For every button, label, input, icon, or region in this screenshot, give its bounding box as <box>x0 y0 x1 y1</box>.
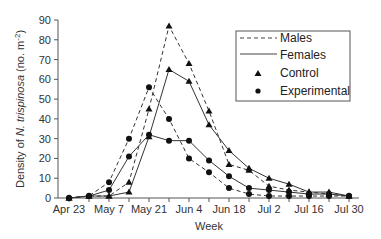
y-tick-label: 60 <box>39 73 51 85</box>
circle-marker <box>306 191 312 197</box>
y-tick-label: 50 <box>39 93 51 105</box>
series-males-experimental <box>66 84 352 201</box>
x-tick-label: Jul 16 <box>294 203 323 215</box>
circle-marker-icon <box>255 88 260 93</box>
triangle-marker <box>146 106 153 112</box>
y-axis-title: Density of N. trispinosa (no. m-2) <box>13 30 27 188</box>
legend-label-males: Males <box>280 31 312 45</box>
x-tick-label: Apr 23 <box>53 203 85 215</box>
x-tick-label: Jun 4 <box>176 203 203 215</box>
triangle-marker <box>166 66 173 72</box>
x-axis-title: Week <box>195 220 223 232</box>
y-tick-label: 20 <box>39 152 51 164</box>
line-chart: 0102030405060708090Apr 23May 7May 21Jun … <box>0 0 381 239</box>
y-tick-label: 70 <box>39 54 51 66</box>
triangle-marker <box>126 179 133 185</box>
circle-marker <box>246 185 252 191</box>
triangle-marker <box>206 107 213 113</box>
x-tick-label: Jul 30 <box>334 203 363 215</box>
legend-label-experimental: Experimental <box>280 84 350 98</box>
y-tick-label: 80 <box>39 34 51 46</box>
x-tick-label: May 7 <box>94 203 124 215</box>
triangle-marker <box>206 121 213 127</box>
circle-marker <box>206 157 212 163</box>
triangle-marker <box>186 78 193 84</box>
circle-marker <box>286 189 292 195</box>
triangle-marker <box>226 161 233 167</box>
x-tick-label: May 21 <box>131 203 167 215</box>
circle-marker <box>226 185 232 191</box>
triangle-marker <box>166 22 173 28</box>
circle-marker <box>146 132 152 138</box>
x-tick-label: Jul 2 <box>257 203 280 215</box>
circle-marker <box>106 187 112 193</box>
circle-marker <box>166 138 172 144</box>
circle-marker <box>346 193 352 199</box>
circle-marker <box>86 193 92 199</box>
circle-marker <box>266 187 272 193</box>
triangle-marker <box>126 189 133 195</box>
circle-marker <box>126 153 132 159</box>
y-tick-label: 0 <box>45 192 51 204</box>
circle-marker <box>106 179 112 185</box>
circle-marker <box>186 138 192 144</box>
circle-marker <box>186 155 192 161</box>
y-tick-label: 90 <box>39 14 51 26</box>
x-tick-label: Jun 18 <box>212 203 245 215</box>
circle-marker <box>126 136 132 142</box>
circle-marker <box>166 116 172 122</box>
y-tick-label: 40 <box>39 113 51 125</box>
y-tick-label: 30 <box>39 133 51 145</box>
circle-marker <box>206 169 212 175</box>
legend: Males Females Control Experimental <box>236 31 350 101</box>
circle-marker <box>266 193 272 199</box>
legend-label-females: Females <box>280 48 326 62</box>
legend-label-control: Control <box>280 66 319 80</box>
circle-marker <box>146 84 152 90</box>
triangle-marker <box>186 60 193 66</box>
circle-marker <box>246 191 252 197</box>
circle-marker <box>326 191 332 197</box>
circle-marker <box>66 195 72 201</box>
triangle-marker <box>266 175 273 181</box>
y-tick-label: 10 <box>39 172 51 184</box>
circle-marker <box>226 173 232 179</box>
